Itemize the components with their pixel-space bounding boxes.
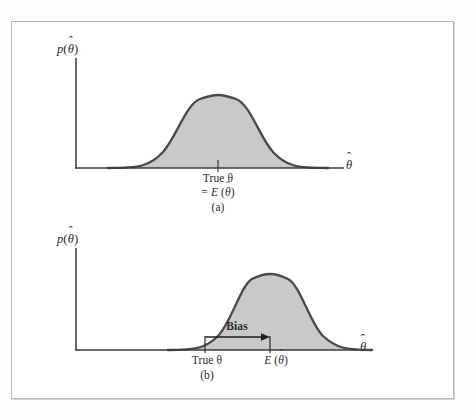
panel-b-caption: (b) xyxy=(200,369,214,381)
panel-b-y-axis-label: p(̂θ) xyxy=(57,232,78,247)
paren-close: ) xyxy=(284,354,288,366)
paren-close: ) xyxy=(74,232,78,246)
panel-b-true-theta-text: True θ xyxy=(192,354,222,366)
panel-a-x-axis-label: ̂θ xyxy=(346,158,352,173)
theta-hat-glyph: ̂θ xyxy=(68,232,74,247)
panel-a-expected-theta-label: = E (̂θ) xyxy=(201,186,234,198)
theta-hat-glyph: ̂θ xyxy=(225,186,231,198)
figure-root: p(̂θ) ̂θ True θ = E (̂θ) (a) p(̂θ) ̂θ Bi… xyxy=(0,0,474,418)
panel-a-y-axis-label: p(̂θ) xyxy=(57,42,78,57)
theta-hat-glyph: ̂θ xyxy=(360,340,366,355)
expectation-operator: E xyxy=(211,186,218,198)
bias-label: Bias xyxy=(226,320,248,332)
expectation-operator: E xyxy=(264,354,271,366)
theta-hat-glyph: ̂θ xyxy=(68,42,74,57)
panel-b-x-axis-label: ̂θ xyxy=(360,340,366,355)
theta-hat-glyph: ̂θ xyxy=(278,354,284,366)
paren-close: ) xyxy=(74,42,78,56)
equals-sign: = xyxy=(201,186,208,198)
page-frame xyxy=(11,21,454,399)
paren-close: ) xyxy=(231,186,235,198)
theta-hat-glyph: ̂θ xyxy=(346,158,352,173)
panel-a-caption: (a) xyxy=(211,201,224,213)
panel-b-true-theta-label: True θ xyxy=(192,354,222,366)
panel-b-expected-theta-label: E (̂θ) xyxy=(264,354,288,366)
